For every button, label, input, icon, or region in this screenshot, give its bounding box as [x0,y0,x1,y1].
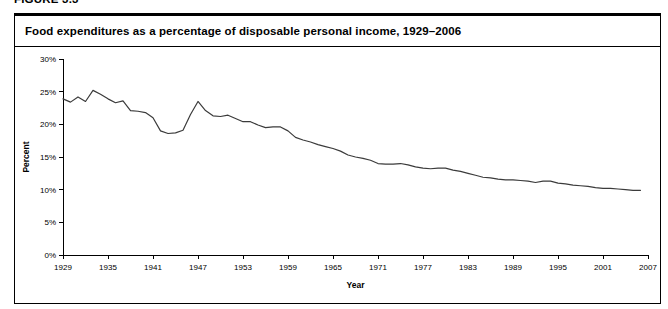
x-tick-label: 1953 [234,263,252,272]
figure-caption: FIGURE 3.3 [14,0,79,5]
x-tick-label: 1977 [414,263,432,272]
y-tick-label: 30% [40,55,56,64]
x-tick-label: 1947 [189,263,207,272]
x-tick-label: 1965 [324,263,342,272]
y-tick-label: 10% [40,186,56,195]
y-tick-label: 25% [40,88,56,97]
x-tick-label: 1995 [549,263,567,272]
x-tick-label: 1959 [279,263,297,272]
figure-page: FIGURE 3.3 Food expenditures as a percen… [0,0,668,309]
y-axis-title: Percent [21,141,31,172]
y-tick-label: 5% [44,218,56,227]
chart-title: Food expenditures as a percentage of dis… [25,25,461,37]
x-tick-label: 1935 [99,263,117,272]
x-tick-label: 1929 [54,263,72,272]
figure-panel: Food expenditures as a percentage of dis… [14,16,661,304]
y-tick-label: 20% [40,120,56,129]
plot-area: 0%5%10%15%20%25%30% 19291935194119471953… [15,47,660,303]
x-tick-label: 2007 [639,263,657,272]
x-tick-label: 1983 [459,263,477,272]
y-tick-label: 0% [44,251,56,260]
y-tick-label: 15% [40,153,56,162]
x-tick-label: 1941 [144,263,162,272]
x-axis-title: Year [347,280,366,290]
data-series-line [63,90,641,190]
x-axis-ticks: 1929193519411947195319591965197119771983… [54,255,657,272]
x-tick-label: 1971 [369,263,387,272]
x-tick-label: 2001 [594,263,612,272]
x-tick-label: 1989 [504,263,522,272]
y-axis-ticks: 0%5%10%15%20%25%30% [40,55,63,260]
line-chart: 0%5%10%15%20%25%30% 19291935194119471953… [15,47,660,303]
